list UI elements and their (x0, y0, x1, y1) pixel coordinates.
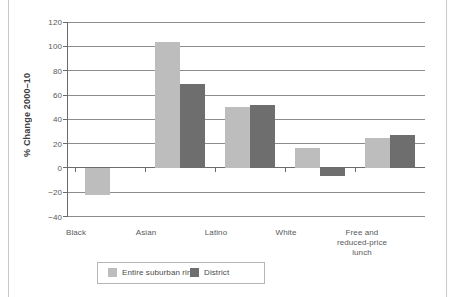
x-category-label-black: Black (46, 228, 106, 238)
y-tick-mark-20 (63, 143, 68, 144)
gridline-neg40 (67, 216, 425, 217)
y-tick-mark-80 (63, 70, 68, 71)
bar-latino-entire-suburban-ring (225, 107, 250, 168)
legend-entry-entire-suburban-ring: Entire suburban ring (108, 268, 196, 277)
y-tick-label-80: 80 (22, 67, 62, 76)
x-category-label-line3: lunch (326, 248, 398, 258)
y-tick-label-120: 120 (22, 18, 62, 27)
bar-free-and-reduced-price-lunch-entire-suburban-ring (365, 138, 390, 168)
x-category-label-free-reduced-lunch: Free and reduced-price lunch (326, 228, 398, 258)
y-tick-label-60: 60 (22, 91, 62, 100)
bar-free-and-reduced-price-lunch-district (390, 135, 415, 168)
bar-white-district (320, 168, 345, 176)
x-tick-mark-2 (145, 167, 146, 172)
x-tick-mark-0 (75, 167, 76, 172)
x-category-label-line2: reduced-price (326, 238, 398, 248)
y-tick-label-100: 100 (22, 42, 62, 51)
y-tick-label-0: 0 (22, 164, 62, 173)
legend-swatch-icon-dark (190, 268, 199, 277)
gridline-neg20 (67, 192, 425, 193)
y-tick-label-40: 40 (22, 115, 62, 124)
y-tick-label-neg40: −40 (22, 213, 62, 222)
x-category-label-asian: Asian (116, 228, 176, 238)
x-tick-mark-5 (355, 167, 356, 172)
y-tick-label-20: 20 (22, 140, 62, 149)
bar-asian-district (180, 84, 205, 168)
x-category-label-line1: Black (46, 228, 106, 238)
x-category-label-white: White (256, 228, 316, 238)
bar-black-district (110, 167, 135, 168)
x-category-label-latino: Latino (186, 228, 246, 238)
chart-figure: % Change 2000–10 120 100 80 60 40 20 0 −… (0, 0, 454, 297)
x-category-label-line1: Free and (326, 228, 398, 238)
legend-swatch-icon-light (108, 268, 117, 277)
bar-asian-entire-suburban-ring (155, 42, 180, 169)
y-tick-mark-neg40 (63, 216, 68, 217)
legend-label: District (204, 268, 229, 277)
x-category-label-line1: White (256, 228, 316, 238)
bar-latino-district (250, 105, 275, 168)
y-tick-mark-60 (63, 95, 68, 96)
gridline-60 (67, 95, 425, 96)
x-tick-mark-1 (67, 167, 68, 172)
x-category-label-line1: Latino (186, 228, 246, 238)
bar-white-entire-suburban-ring (295, 148, 320, 169)
x-tick-mark-3 (215, 167, 216, 172)
x-category-label-line1: Asian (116, 228, 176, 238)
y-tick-mark-120 (63, 22, 68, 23)
gridline-80 (67, 70, 425, 71)
legend-entry-district: District (190, 268, 229, 277)
chart-legend: Entire suburban ring District (97, 262, 265, 284)
y-tick-label-neg20: −20 (22, 188, 62, 197)
bar-black-entire-suburban-ring (85, 168, 110, 195)
page-edge-rule-right (446, 0, 447, 297)
y-tick-mark-40 (63, 119, 68, 120)
page-edge-rule-left (8, 0, 9, 297)
plot-area (67, 22, 425, 217)
x-tick-mark-4 (285, 167, 286, 172)
y-tick-mark-100 (63, 46, 68, 47)
gridline-100 (67, 46, 425, 47)
gridline-120 (67, 22, 425, 23)
y-tick-mark-neg20 (63, 192, 68, 193)
legend-label: Entire suburban ring (122, 268, 196, 277)
